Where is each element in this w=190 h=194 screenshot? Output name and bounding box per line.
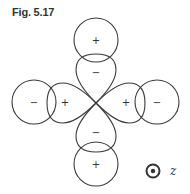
orbital-diagram: − + + − + − − + z [0, 0, 190, 194]
lobe-left-sign: + [61, 97, 69, 108]
lobe-left [47, 83, 96, 123]
lobe-top-sign: − [92, 67, 100, 78]
z-axis-out-of-page-icon [147, 165, 160, 178]
lobe-bottom-sign: − [92, 127, 100, 138]
outer-circle-left-sign: − [30, 97, 38, 108]
outer-circle-right-sign: − [153, 97, 161, 108]
outer-circle-bottom-sign: + [92, 159, 100, 170]
outer-circle-top-sign: + [92, 35, 100, 46]
lobe-right-sign: + [122, 97, 130, 108]
z-axis-label: z [169, 164, 177, 178]
lobe-right [96, 83, 145, 123]
lobe-top [76, 54, 116, 103]
